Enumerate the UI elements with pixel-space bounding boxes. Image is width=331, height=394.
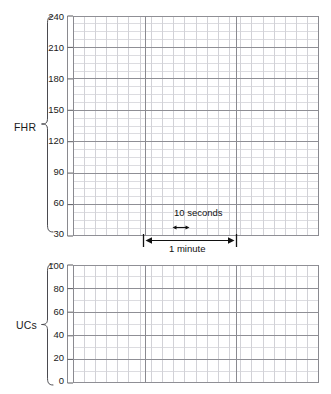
fhr-panel: FHR 240 210 180 150 120 90 60 30: [0, 0, 331, 250]
ucs-ytick-0: 0: [38, 376, 64, 386]
ucs-ytick-80: 80: [38, 284, 64, 294]
ucs-ytick-60: 60: [38, 307, 64, 317]
ten-seconds-label: 10 seconds: [174, 207, 223, 218]
fhr-ytick-210: 210: [38, 43, 64, 53]
ucs-plot-area: [73, 265, 319, 383]
fhr-axis-group-label: FHR: [14, 121, 36, 133]
ucs-ytick-20: 20: [38, 353, 64, 363]
fhr-grid: [73, 16, 319, 236]
ucs-grid: [73, 265, 319, 383]
fhr-ytick-60: 60: [38, 198, 64, 208]
ucs-axis-group-label: UCs: [16, 319, 37, 331]
ucs-ytick-40: 40: [38, 330, 64, 340]
fhr-ytick-150: 150: [38, 105, 64, 115]
ten-seconds-arrow: [172, 218, 194, 227]
fhr-ytick-30: 30: [38, 229, 64, 239]
fhr-ytick-120: 120: [38, 136, 64, 146]
fhr-plot-area: [73, 16, 319, 236]
fhr-ytick-180: 180: [38, 74, 64, 84]
ucs-panel: UCs 100 80 60 40 20 0: [0, 258, 331, 394]
fhr-ytick-90: 90: [38, 167, 64, 177]
fhr-ytick-240: 240: [38, 12, 64, 22]
ucs-brace: [40, 263, 54, 386]
monitoring-strip-figure: FHR 240 210 180 150 120 90 60 30: [0, 0, 331, 394]
one-minute-label: 1 minute: [169, 243, 205, 254]
ucs-ytick-100: 100: [38, 261, 64, 271]
